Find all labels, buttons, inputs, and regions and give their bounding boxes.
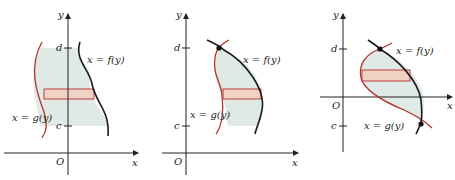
origin-label: O: [174, 156, 182, 167]
x-axis-label: x: [447, 100, 453, 111]
shaded-region: [360, 49, 424, 122]
intersection-point-lower: [418, 121, 423, 126]
x-axis-label: x: [292, 157, 298, 168]
bound-d-label: d: [331, 43, 337, 54]
bound-c-label: c: [56, 120, 62, 131]
panel-2: y x O d c x = f(y) x = g(y): [162, 9, 298, 175]
figure-canvas: y x O d c x = f(y) x = g(y) y x O d c x …: [0, 0, 455, 180]
y-axis-label: y: [332, 9, 339, 20]
bound-c-label: c: [174, 120, 180, 131]
y-axis-label: y: [57, 9, 64, 20]
intersection-point-upper: [377, 46, 382, 51]
strip-rectangle: [362, 70, 410, 81]
g-label: x = g(y): [190, 109, 230, 120]
panel-3: y x O d c x = f(y) x = g(y): [320, 9, 453, 152]
panel-1: y x O d c x = f(y) x = g(y): [4, 9, 138, 175]
y-axis-label: y: [175, 9, 182, 20]
f-label: x = f(y): [87, 54, 125, 65]
bound-d-label: d: [56, 42, 62, 53]
strip-rectangle: [44, 89, 94, 99]
origin-label: O: [56, 156, 64, 167]
origin-label: O: [332, 100, 340, 111]
f-label: x = f(y): [243, 54, 281, 65]
intersection-point: [216, 45, 221, 50]
g-label: x = g(y): [364, 120, 404, 131]
g-label: x = g(y): [12, 112, 52, 123]
x-axis-label: x: [132, 157, 138, 168]
strip-rectangle: [223, 89, 261, 99]
bound-c-label: c: [331, 120, 337, 131]
bound-d-label: d: [174, 42, 180, 53]
f-label: x = f(y): [396, 45, 434, 56]
